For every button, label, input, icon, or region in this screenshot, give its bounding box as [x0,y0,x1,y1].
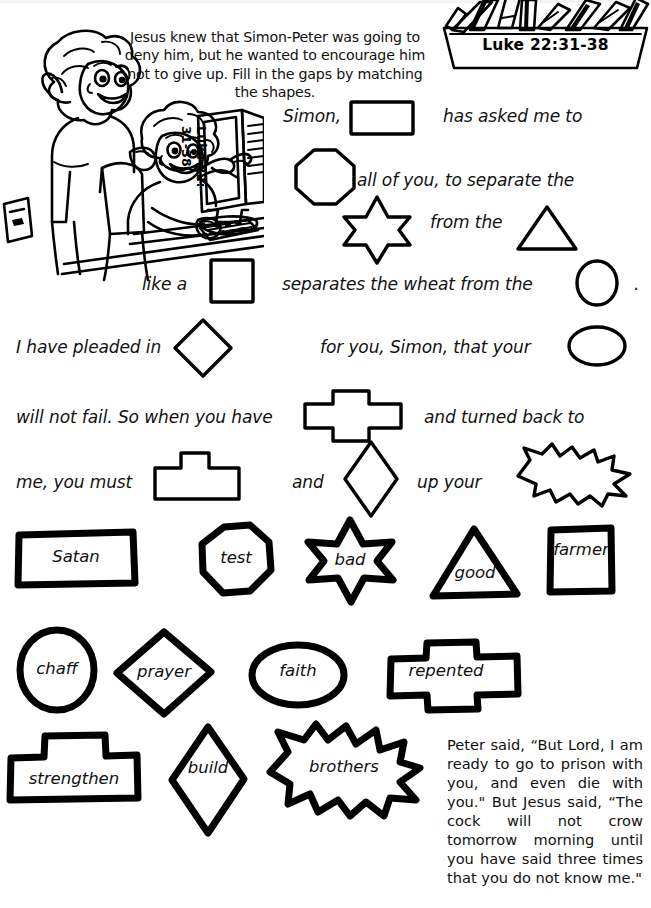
cross-blank[interactable] [303,388,403,444]
word-label-farmer: farmer [546,540,616,559]
sentence-fragment-9: for you, Simon, that your [320,337,531,357]
oval-blank[interactable] [566,324,628,368]
sentence-fragment-10: will not fail. So when you have [16,407,273,427]
word-label-repented: repented [386,661,506,680]
word-label-strengthen: strengthen [6,769,142,788]
sentence-fragment-1: Simon, [283,106,341,126]
sentence-fragment-6: separates the wheat from the [282,274,533,294]
word-shape-square[interactable] [546,524,616,596]
word-label-bad: bad [303,550,397,569]
star-blank[interactable] [341,195,413,265]
word-shape-triangle[interactable] [428,524,522,600]
word-label-faith: faith [246,661,350,680]
sentence-fragment-8: I have pleaded in [16,337,161,357]
rectangle-blank[interactable] [349,100,415,136]
word-shape-plinth[interactable] [6,730,142,804]
word-label-good: good [435,563,515,582]
sentence-fragment-3: all of you, to separate the [357,170,574,190]
word-label-satan: Satan [14,547,138,566]
circle-blank[interactable] [574,258,620,308]
closing-narrative-text: Peter said, “But Lord, I am ready to go … [447,736,643,888]
monitor-label-line1: Luke 22: [194,126,209,188]
sentence-fragment-13: and [292,472,324,492]
plinth-blank[interactable] [153,450,241,502]
word-shape-tall-diamond[interactable] [167,722,249,838]
monitor-screen-label: Luke 22: 31-38 [179,126,209,172]
word-label-test: test [198,548,274,567]
word-label-chaff: chaff [14,659,100,678]
sentence-fragment-2: has asked me to [443,106,582,126]
diamond-blank[interactable] [173,318,233,378]
word-label-build: build [167,758,249,777]
square-blank[interactable] [209,258,255,304]
sentence-fragment-11: and turned back to [424,407,584,427]
word-label-prayer: prayer [112,662,216,681]
tall-diamond-blank[interactable] [343,440,399,518]
sentence-fragment-7: . [634,274,639,294]
sentence-fragment-12: me, you must [16,472,132,492]
monitor-label-line2: 31-38 [179,126,194,167]
burst-blank[interactable] [514,442,634,508]
verse-reference-pencil-box: Luke 22:31-38 [440,0,651,72]
triangle-blank[interactable] [515,204,579,252]
sentence-fragment-5: like a [142,274,187,294]
word-label-brothers: brothers [264,757,424,776]
intro-paragraph: Jesus knew that Simon-Peter was going to… [120,28,430,102]
sentence-fragment-14: up your [417,472,482,492]
sentence-fragment-4: from the [430,212,502,232]
worksheet-page: Luke 22: 31-38 Jesus knew that Simon-Pet… [0,0,651,908]
verse-reference-label: Luke 22:31-38 [440,36,651,54]
